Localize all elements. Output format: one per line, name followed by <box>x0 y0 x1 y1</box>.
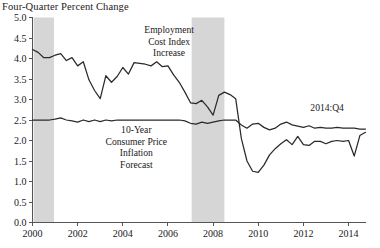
y-axis-tick-label: 2.5 <box>14 115 27 126</box>
y-axis-tick-label: 1.5 <box>14 156 27 167</box>
x-axis-tick-label: 2012 <box>293 228 313 239</box>
cpi-label-line: 10-Year <box>121 124 152 135</box>
recession-2008 <box>192 18 225 223</box>
y-axis-tick-label: 5.0 <box>14 12 27 23</box>
chart-plot-area: 0.00.51.01.52.02.53.03.54.04.55.0 200020… <box>0 0 380 248</box>
cpi-label: 10-YearConsumer PriceInflationForecast <box>106 124 168 170</box>
eci-label-line: Employment <box>144 24 194 35</box>
eci-label-line: Cost Index <box>148 36 190 47</box>
chart-container: Four-Quarter Percent Change 0.00.51.01.5… <box>0 0 380 248</box>
x-axis-tick-label: 2000 <box>23 228 43 239</box>
y-axis-tick-label: 0.5 <box>14 197 27 208</box>
endpoint-label: 2014:Q4 <box>310 102 344 113</box>
cpi-label-line: Forecast <box>120 159 153 170</box>
y-axis-tick-label: 4.5 <box>14 33 27 44</box>
y-axis-tick-label: 2.0 <box>14 135 27 146</box>
y-axis-tick-label: 3.5 <box>14 74 27 85</box>
x-axis-tick-label: 2010 <box>248 228 268 239</box>
annotations-group: EmploymentCost IndexIncrease10-YearConsu… <box>106 24 345 170</box>
x-axis-ticks-group: 20002002200420062008201020122014 <box>23 223 359 240</box>
x-axis-tick-label: 2008 <box>203 228 223 239</box>
y-axis-ticks-group: 0.00.51.01.52.02.53.03.54.04.55.0 <box>14 12 33 228</box>
y-axis-tick-label: 1.0 <box>14 176 27 187</box>
y-axis-tick-label: 4.0 <box>14 53 27 64</box>
y-axis-tick-label: 0.0 <box>14 217 27 228</box>
endpoint-label-line: 2014:Q4 <box>310 102 344 113</box>
cpi-label-line: Consumer Price <box>106 136 168 147</box>
x-axis-tick-label: 2006 <box>158 228 178 239</box>
cpi-label-line: Inflation <box>120 147 153 158</box>
x-axis-tick-label: 2002 <box>68 228 88 239</box>
eci-label: EmploymentCost IndexIncrease <box>144 24 194 58</box>
y-axis-tick-label: 3.0 <box>14 94 27 105</box>
x-axis-tick-label: 2014 <box>339 228 359 239</box>
eci-label-line: Increase <box>153 47 185 58</box>
x-axis-tick-label: 2004 <box>113 228 133 239</box>
